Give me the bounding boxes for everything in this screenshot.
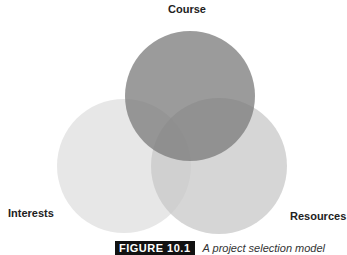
interests-label: Interests (8, 207, 54, 219)
figure-caption: FIGURE 10.1 A project selection model (115, 241, 325, 255)
course-circle (125, 31, 255, 161)
resources-label: Resources (290, 210, 346, 222)
figure-title: A project selection model (203, 242, 326, 254)
course-label: Course (168, 3, 206, 15)
figure-number: FIGURE 10.1 (115, 241, 195, 255)
